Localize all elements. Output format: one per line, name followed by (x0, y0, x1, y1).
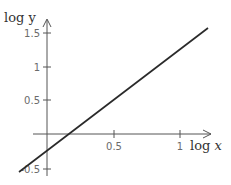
x-axis-label-var: x (214, 138, 222, 153)
y-tick-label-1.5: 1.5 (24, 28, 40, 39)
y-tick-label-0.5: 0.5 (24, 95, 40, 106)
x-axis-label: log x (190, 138, 222, 153)
y-axis-label: log y (4, 10, 36, 25)
y-tick-label-1: 1 (34, 62, 40, 73)
x-tick-label-1: 1 (177, 141, 183, 152)
log-log-chart: 1.5 1 0.5 -0.5 0.5 1 log y log x (0, 0, 231, 185)
x-axis-label-log: log (190, 138, 214, 153)
x-tick-label-0.5: 0.5 (106, 141, 122, 152)
